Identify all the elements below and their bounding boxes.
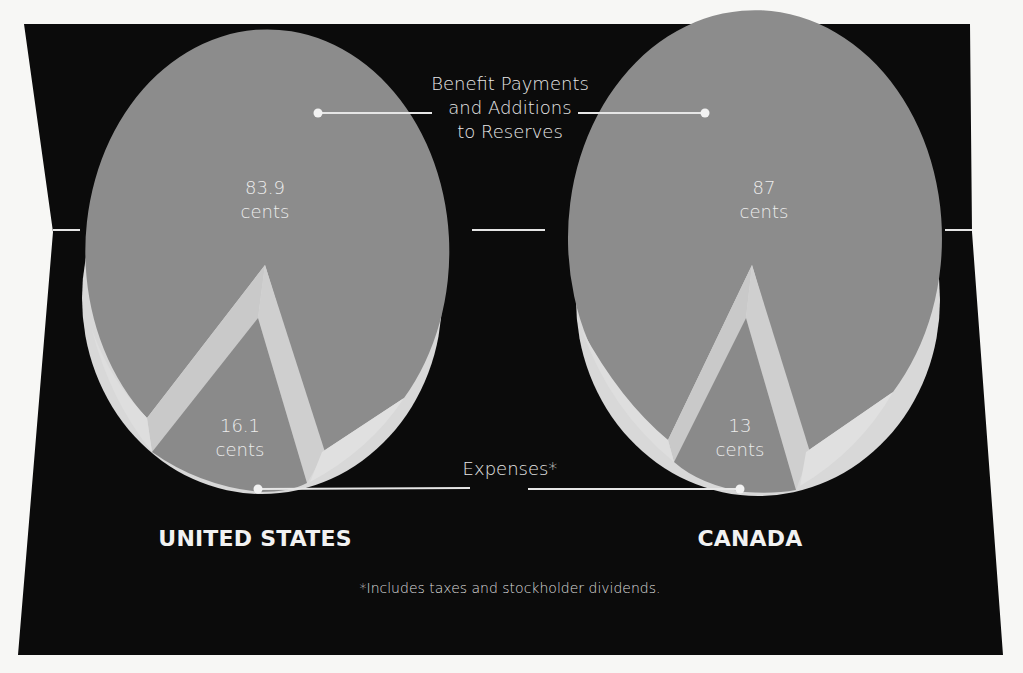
canada-slice-value: 13 cents [680, 414, 800, 462]
us-main-unit: cents [205, 200, 325, 224]
canada-main-value: 87 cents [704, 176, 824, 224]
canada-slice-number: 13 [680, 414, 800, 438]
footnote: *Includes taxes and stockholder dividend… [250, 580, 770, 596]
us-main-number: 83.9 [205, 176, 325, 200]
canada-country-label: CANADA [660, 526, 840, 551]
benefit-label-line-1: Benefit Payments [380, 72, 640, 96]
benefit-label: Benefit Payments and Additions to Reserv… [380, 72, 640, 144]
canada-slice-unit: cents [680, 438, 800, 462]
us-slice-value: 16.1 cents [180, 414, 300, 462]
expenses-label: Expenses* [440, 458, 580, 479]
benefit-label-line-2: and Additions [380, 96, 640, 120]
us-country-label: UNITED STATES [140, 526, 370, 551]
canada-main-number: 87 [704, 176, 824, 200]
chart-figure: Benefit Payments and Additions to Reserv… [0, 0, 1023, 673]
us-slice-number: 16.1 [180, 414, 300, 438]
benefit-label-line-3: to Reserves [380, 120, 640, 144]
us-slice-unit: cents [180, 438, 300, 462]
us-benefit-dot [314, 109, 323, 118]
canada-main-unit: cents [704, 200, 824, 224]
us-expense-dot [254, 485, 263, 494]
us-main-value: 83.9 cents [205, 176, 325, 224]
canada-benefit-dot [701, 109, 710, 118]
canada-expense-dot [736, 485, 745, 494]
